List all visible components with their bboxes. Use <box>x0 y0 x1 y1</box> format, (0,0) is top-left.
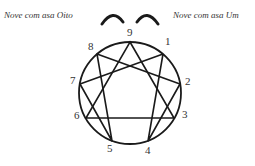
point-label-6: 6 <box>74 110 80 121</box>
point-label-7: 7 <box>70 75 76 86</box>
wing-label-left: Nove com asa Oito <box>4 11 73 20</box>
outer-circle <box>79 42 181 144</box>
point-label-8: 8 <box>88 41 94 52</box>
point-label-2: 2 <box>185 76 191 87</box>
point-label-1: 1 <box>165 36 171 47</box>
wing-label-right: Nove com asa Um <box>173 11 239 20</box>
enneagram-figure <box>0 0 255 166</box>
point-label-4: 4 <box>145 145 151 156</box>
point-label-3: 3 <box>182 109 188 120</box>
inner-hexad <box>80 54 180 141</box>
wing-arc-left <box>102 15 123 24</box>
wing-arc-right <box>137 15 158 24</box>
point-label-9: 9 <box>127 27 133 38</box>
point-label-5: 5 <box>107 143 113 154</box>
